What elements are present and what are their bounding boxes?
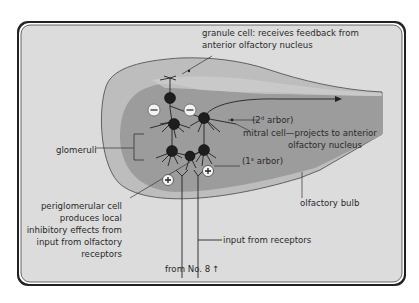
mitral-cell-body-1: [169, 119, 180, 130]
olfactory-bulb-diagram: granule cell: receives feedback from ant…: [0, 0, 419, 303]
label-periglom-3: inhibitory effects from: [27, 225, 122, 235]
periglomerular-cell-body: [185, 151, 195, 161]
label-input-receptors: input from receptors: [223, 235, 312, 245]
label-from-no8: from No. 8: [165, 264, 210, 274]
granule-cell-body: [165, 93, 176, 104]
label-granule-2: anterior olfactory nucleus: [202, 40, 313, 50]
label-mitral-2: olfactory nucleus: [288, 140, 362, 150]
up-arrow-icon: ↑: [212, 264, 219, 274]
label-periglom-4: input from olfactory: [37, 237, 122, 247]
label-mitral-1: mitral cell—projects to anterior: [243, 128, 377, 138]
label-arbor1: (1ˢ arbor): [242, 156, 283, 166]
label-periglom-1: periglomerular cell: [41, 201, 122, 211]
label-glomeruli: glomeruli: [56, 145, 97, 155]
label-olfactory-bulb: olfactory bulb: [300, 198, 359, 208]
glomerular-cell-1: [167, 146, 178, 157]
label-granule-1: granule cell: receives feedback from: [202, 28, 359, 38]
mitral-cell-body-2: [199, 113, 210, 124]
label-arbor2: (2ᵈ arbor): [252, 115, 293, 125]
label-periglom-2: produces local: [60, 213, 122, 223]
glomerular-cell-2: [199, 145, 210, 156]
label-periglom-5: receptors: [81, 249, 122, 259]
